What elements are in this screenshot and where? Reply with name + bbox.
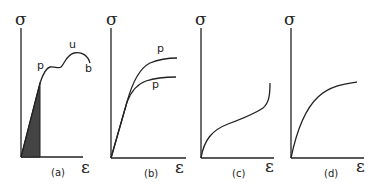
stress-strain-diagrams: [0, 0, 378, 188]
panel-c-sigma-label: σ: [195, 11, 207, 28]
panel-a-point-u: u: [69, 39, 76, 50]
panel-a-point-b: b: [85, 63, 92, 74]
panel-a: [21, 28, 90, 157]
panel-b-curve-upper: [111, 58, 177, 158]
panel-d: [291, 28, 364, 158]
panel-b-caption: (b): [144, 169, 158, 179]
panel-d-sigma-label: σ: [284, 11, 296, 28]
panel-c-curve: [201, 83, 270, 158]
panel-b-sigma-label: σ: [106, 11, 118, 28]
panel-d-curve: [291, 82, 357, 158]
panel-b: [111, 28, 186, 158]
panel-d-epsilon-label: ε: [356, 158, 365, 175]
panel-c-caption: (c): [232, 169, 245, 179]
panel-b-curve-lower: [111, 77, 176, 158]
panel-b-point-p-upper: p: [157, 43, 164, 54]
panel-a-epsilon-label: ε: [81, 159, 90, 176]
panel-a-sigma-label: σ: [15, 11, 27, 28]
panel-a-caption: (a): [51, 168, 65, 178]
panel-b-point-p-lower: p: [152, 79, 159, 90]
panel-d-caption: (d): [324, 169, 338, 179]
panel-c-epsilon-label: ε: [265, 158, 274, 175]
panel-b-epsilon-label: ε: [175, 159, 184, 176]
panel-a-point-p: p: [37, 60, 44, 71]
panel-c: [201, 28, 274, 158]
